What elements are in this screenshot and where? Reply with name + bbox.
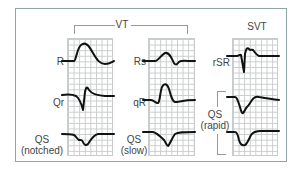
vt-bracket-left	[74, 25, 115, 34]
group-label-vt: VT	[115, 19, 129, 30]
morph-sub-notched: (notched)	[18, 145, 66, 156]
ecg-trace-qr	[60, 82, 120, 114]
morph-label-qs-notched: QS	[20, 134, 64, 145]
group-label-svt: SVT	[244, 21, 270, 32]
ecg-trace-qs-rapid-1	[225, 93, 285, 123]
ecg-trace-rsr	[225, 44, 285, 80]
ecg-trace-qr-small	[141, 80, 201, 114]
ecg-trace-qs-rapid-2	[225, 127, 285, 157]
ecg-trace-qs-notched	[60, 130, 120, 158]
vt-bracket-right	[131, 25, 188, 34]
ecg-trace-qs-slow	[141, 128, 201, 158]
ecg-trace-rs	[141, 44, 201, 74]
ecg-trace-r	[60, 40, 120, 70]
